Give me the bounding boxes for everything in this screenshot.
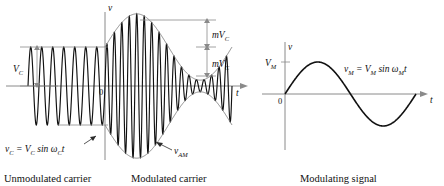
vam-callout: vAM: [156, 142, 188, 158]
vm-equation: vM = VM sin ωMt: [344, 64, 407, 76]
mvc-dimension-upper: mVC: [140, 18, 230, 49]
right-axis-label-v: v: [288, 42, 293, 52]
right-origin-label: 0: [278, 96, 282, 106]
caption-modulated-carrier: Modulated carrier: [131, 173, 207, 184]
caption-modulating-signal: Modulating signal: [300, 173, 377, 184]
left-time-axis-arrow: [240, 83, 248, 89]
vc-equation: vC = VC sin ωCt: [5, 144, 65, 156]
caption-unmodulated-carrier: Unmodulated carrier: [4, 173, 92, 184]
left-axis-label-v: v: [108, 3, 113, 13]
am-modulation-figure: v t 0 VC mVC: [0, 0, 444, 186]
right-axis-label-t: t: [430, 95, 433, 105]
left-axis-label-t: t: [236, 88, 239, 98]
modulating-signal-panel: v t 0 VM vM = VM sin ωMt: [262, 42, 433, 150]
right-time-axis-arrow: [420, 91, 428, 97]
vm-label: VM: [265, 58, 277, 70]
vc-equation-callout: vC = VC sin ωCt: [5, 136, 96, 156]
vam-label: vAM: [174, 146, 188, 158]
carrier-panel: v t 0 VC mVC: [5, 3, 248, 160]
mvc-upper-label: mVC: [212, 30, 230, 42]
vc-label: VC: [13, 64, 24, 76]
